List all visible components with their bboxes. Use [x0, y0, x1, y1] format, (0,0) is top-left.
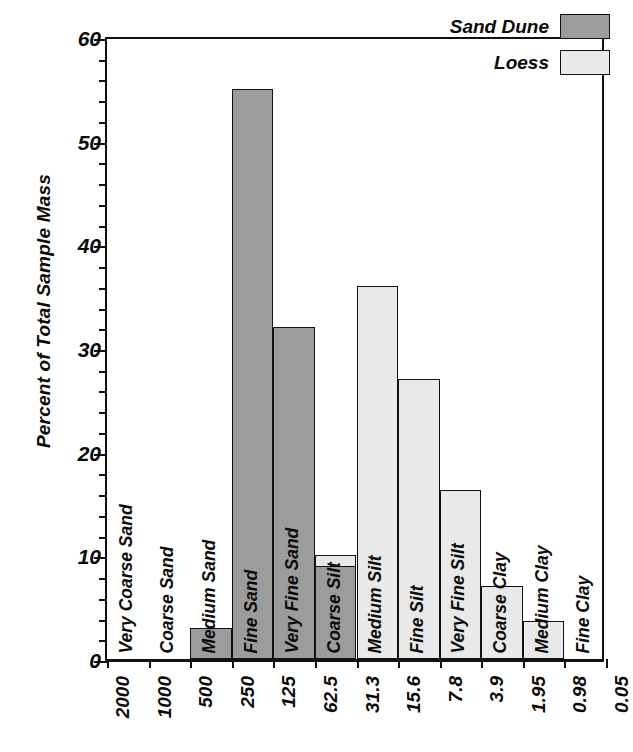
category-label: Medium Clay — [533, 545, 551, 653]
x-axis-tick — [440, 659, 442, 668]
y-axis-tick-label: 40 — [78, 234, 101, 258]
legend-label-loess: Loess — [494, 52, 549, 74]
y-axis-minor-tick — [99, 60, 107, 62]
category-label: Fine Silt — [408, 585, 426, 653]
y-axis-minor-tick — [99, 101, 107, 103]
y-axis-tick-label: 10 — [78, 545, 101, 569]
y-axis-minor-tick — [99, 371, 107, 373]
x-axis-tick — [564, 659, 566, 668]
category-label: Fine Clay — [575, 575, 593, 653]
legend-swatch-loess — [560, 50, 610, 75]
x-axis-tick-label: 3.9 — [486, 676, 508, 702]
y-axis-minor-tick — [99, 516, 107, 518]
y-axis-minor-tick — [99, 163, 107, 165]
y-axis-minor-tick — [99, 599, 107, 601]
y-axis-title: Percent of Total Sample Mass — [33, 101, 55, 521]
chart-legend: Sand Dune Loess — [450, 14, 610, 86]
y-axis-minor-tick — [99, 537, 107, 539]
plot-area: Very Coarse SandCoarse SandMedium SandFi… — [105, 37, 604, 662]
category-label: Fine Sand — [242, 569, 260, 653]
y-axis-minor-tick — [99, 226, 107, 228]
y-axis-tick-label: 30 — [78, 338, 101, 362]
x-axis-tick-label: 31.3 — [362, 676, 384, 713]
category-label: Coarse Clay — [492, 552, 510, 653]
x-axis-tick-label: 125 — [278, 676, 300, 708]
x-axis-tick — [190, 659, 192, 668]
x-axis-tick-label: 0.98 — [569, 676, 591, 713]
legend-item-loess: Loess — [450, 50, 610, 75]
y-axis-minor-tick — [99, 495, 107, 497]
x-axis-tick — [149, 659, 151, 668]
y-axis-minor-tick — [99, 578, 107, 580]
y-axis-minor-tick — [99, 640, 107, 642]
x-axis-tick-label: 62.5 — [320, 676, 342, 713]
y-axis-minor-tick — [99, 329, 107, 331]
category-label: Medium Silt — [367, 555, 385, 653]
x-axis-tick — [523, 659, 525, 668]
y-axis-tick-label: 60 — [78, 27, 101, 51]
category-label: Coarse Silt — [325, 562, 343, 653]
x-axis-tick — [315, 659, 317, 668]
legend-label-sand-dune: Sand Dune — [450, 16, 549, 38]
x-axis-tick-label: 250 — [237, 676, 259, 708]
y-axis-minor-tick — [99, 433, 107, 435]
category-label: Very Fine Silt — [450, 543, 468, 653]
x-axis-tick-label: 2000 — [112, 676, 134, 718]
y-axis-minor-tick — [99, 474, 107, 476]
y-axis-minor-tick — [99, 205, 107, 207]
x-axis-tick — [606, 659, 608, 668]
y-axis-tick-label: 0 — [89, 649, 101, 673]
y-axis-tick-label: 20 — [78, 442, 101, 466]
category-label: Coarse Sand — [159, 546, 177, 653]
y-axis-minor-tick — [99, 309, 107, 311]
x-axis-tick — [398, 659, 400, 668]
y-axis-minor-tick — [99, 122, 107, 124]
legend-swatch-sand-dune — [560, 14, 610, 39]
y-axis-tick-label: 50 — [78, 131, 101, 155]
x-axis-tick-label: 7.8 — [445, 676, 467, 702]
x-axis-tick — [481, 659, 483, 668]
y-axis-minor-tick — [99, 267, 107, 269]
legend-item-sand-dune: Sand Dune — [450, 14, 610, 39]
y-axis-minor-tick — [99, 391, 107, 393]
x-axis-tick — [273, 659, 275, 668]
y-axis-minor-tick — [99, 80, 107, 82]
x-axis-tick-label: 0.05 — [611, 676, 633, 713]
y-axis-minor-tick — [99, 620, 107, 622]
category-label: Medium Sand — [200, 539, 218, 653]
x-axis-tick — [232, 659, 234, 668]
category-label: Very Fine Sand — [284, 527, 302, 653]
y-axis-minor-tick — [99, 412, 107, 414]
x-axis-tick — [107, 659, 109, 668]
x-axis-tick-label: 500 — [195, 676, 217, 708]
bars-layer: Very Coarse SandCoarse SandMedium SandFi… — [107, 39, 602, 659]
x-axis-tick-label: 15.6 — [403, 676, 425, 713]
x-axis-tick-label: 1.95 — [528, 676, 550, 713]
x-axis-tick-label: 1000 — [154, 676, 176, 718]
y-axis-minor-tick — [99, 288, 107, 290]
x-axis-tick — [357, 659, 359, 668]
category-label: Very Coarse Sand — [117, 504, 135, 653]
y-axis-minor-tick — [99, 184, 107, 186]
